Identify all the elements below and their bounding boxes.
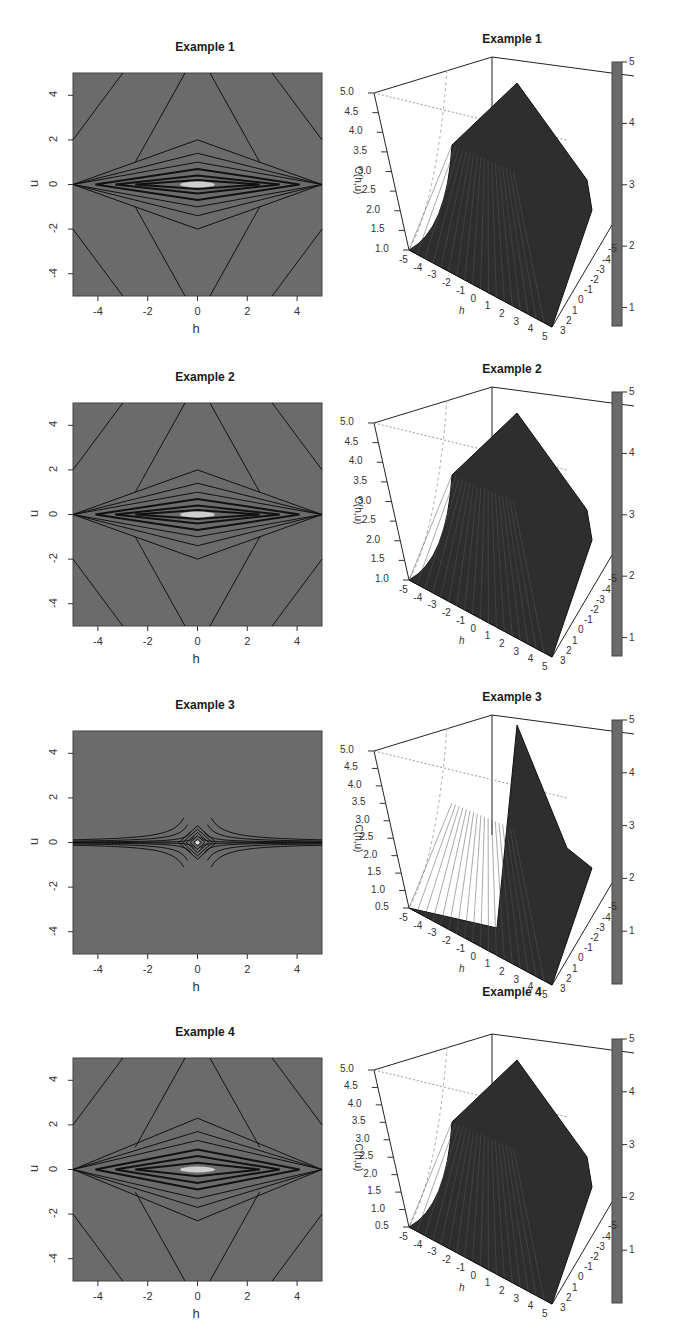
colorbar-tick-label: 1 (629, 632, 635, 643)
x-tick-label: -2 (138, 635, 158, 647)
z-tick-label: 2.0 (366, 534, 380, 545)
x-tick-label: -1 (456, 943, 465, 954)
x-axis-label: h (459, 963, 465, 974)
x-tick-label: 4 (528, 1300, 534, 1311)
x-tick-label: -3 (428, 927, 437, 938)
colorbar-tick-label: 3 (629, 509, 635, 520)
colorbar-tick-label: 2 (629, 570, 635, 581)
x-tick-label: -2 (138, 1290, 158, 1302)
y-tick-label: -4 (47, 921, 59, 941)
z-tick-label: 3.5 (352, 796, 366, 807)
colorbar-tick-label: 1 (629, 302, 635, 313)
z-tick-label: 4.0 (349, 455, 363, 466)
surface-canvas (337, 985, 674, 1325)
z-tick-label: 3.5 (352, 1115, 366, 1126)
z-tick-label: 4.0 (349, 125, 363, 136)
y-tick-label: -1 (584, 614, 593, 625)
x-tick-label: 2 (237, 305, 257, 317)
x-tick-label: 3 (513, 974, 519, 985)
x-axis-label: h (459, 305, 465, 316)
x-tick-label: -5 (399, 254, 408, 265)
colorbar-tick-label: 4 (629, 767, 635, 778)
colorbar-tick-label: 1 (629, 1244, 635, 1255)
colorbar-tick-label: 4 (629, 447, 635, 458)
x-tick-label: -2 (442, 1254, 451, 1265)
x-tick-label: 4 (287, 305, 307, 317)
x-tick-label: -5 (399, 584, 408, 595)
y-tick-label: 2 (566, 1292, 572, 1303)
y-tick-label: -1 (584, 1261, 593, 1272)
contour-plot-1: Example 1-4-2024-4-2024hu (0, 0, 337, 330)
z-tick-label: 3.5 (353, 475, 367, 486)
colorbar-tick-label: 1 (629, 925, 635, 936)
y-tick-label: 0 (578, 624, 584, 635)
y-tick-label: 0 (578, 294, 584, 305)
x-tick-label: 3 (513, 316, 519, 327)
x-tick-label: -3 (428, 1246, 437, 1257)
x-axis-label: h (459, 635, 465, 646)
x-tick-label: 2 (499, 1285, 505, 1296)
y-tick-label: 2 (566, 315, 572, 326)
y-tick-label: 1 (572, 1282, 578, 1293)
x-tick-label: -1 (456, 1262, 465, 1273)
colorbar-tick-label: 5 (629, 386, 635, 397)
y-tick-label: 4 (47, 84, 59, 104)
z-tick-label: 4.0 (348, 779, 362, 790)
x-tick-label: 2 (237, 635, 257, 647)
y-tick-label: 1 (572, 963, 578, 974)
x-tick-label: -5 (399, 912, 408, 923)
z-tick-label: 3.0 (356, 1133, 370, 1144)
z-tick-label: 1.0 (371, 884, 385, 895)
z-tick-label: 3.0 (356, 814, 370, 825)
y-axis-label: u (26, 509, 41, 516)
x-tick-label: 3 (513, 1293, 519, 1304)
x-tick-label: -4 (88, 1290, 108, 1302)
y-tick-label: -2 (47, 1203, 59, 1223)
z-tick-label: 4.5 (344, 1080, 358, 1091)
z-tick-label: 2.0 (363, 849, 377, 860)
z-axis-label: C(h,u) (353, 497, 364, 525)
y-tick-label: 0 (47, 1159, 59, 1179)
contour-plot-3: Example 3-4-2024-4-2024hu (0, 658, 337, 988)
x-tick-label: -2 (442, 607, 451, 618)
z-tick-label: 4.5 (344, 761, 358, 772)
x-tick-label: -2 (138, 305, 158, 317)
colorbar-tick-label: 5 (629, 714, 635, 725)
x-axis-label: h (193, 1306, 200, 1321)
x-tick-label: 0 (188, 305, 208, 317)
x-tick-label: 3 (513, 646, 519, 657)
x-tick-label: 2 (237, 963, 257, 975)
y-tick-label: 4 (47, 742, 59, 762)
z-tick-label: 2.0 (366, 204, 380, 215)
y-tick-label: 2 (47, 129, 59, 149)
x-tick-label: 0 (188, 635, 208, 647)
z-axis-label: C(h,u) (353, 1144, 364, 1172)
x-tick-label: 0 (188, 963, 208, 975)
x-tick-label: 0 (471, 293, 477, 304)
z-tick-label: 0.5 (375, 1220, 389, 1231)
y-tick-label: -2 (47, 218, 59, 238)
x-tick-label: -4 (413, 592, 422, 603)
z-tick-label: 5.0 (340, 1063, 354, 1074)
y-tick-label: 2 (566, 645, 572, 656)
x-tick-label: 2 (499, 966, 505, 977)
y-tick-label: -1 (584, 284, 593, 295)
surface-canvas (337, 330, 674, 670)
x-tick-label: 2 (237, 1290, 257, 1302)
y-tick-label: -1 (584, 942, 593, 953)
y-tick-label: 2 (566, 973, 572, 984)
colorbar-tick-label: 2 (629, 872, 635, 883)
colorbar-tick-label: 5 (629, 1033, 635, 1044)
x-tick-label: -4 (413, 920, 422, 931)
x-tick-label: -1 (456, 615, 465, 626)
contour-plot-4: Example 4-4-2024-4-2024hu (0, 985, 337, 1315)
z-tick-label: 1.5 (371, 223, 385, 234)
surface-canvas (337, 0, 674, 340)
x-tick-label: 2 (499, 308, 505, 319)
surface-canvas (337, 658, 674, 998)
x-tick-label: -5 (399, 1231, 408, 1242)
z-tick-label: 4.0 (348, 1098, 362, 1109)
y-tick-label: 0 (578, 952, 584, 963)
x-tick-label: 0 (471, 623, 477, 634)
y-axis-label: u (26, 1164, 41, 1171)
